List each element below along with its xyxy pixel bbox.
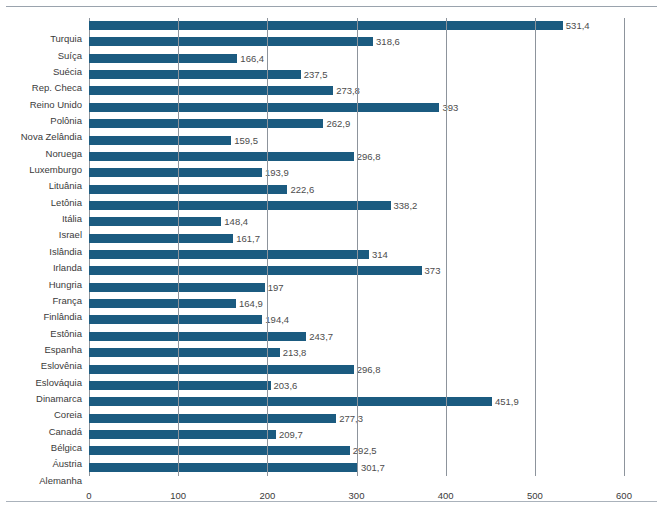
bar-value-label: 209,7	[279, 428, 303, 441]
bar[interactable]	[89, 463, 358, 472]
bar-value-label: 161,7	[236, 232, 260, 245]
plot-area: 531,4318,6166,4237,5273,8393262,9159,529…	[89, 18, 624, 476]
xtick-label-0: 0	[86, 490, 91, 501]
bar-value-label: 262,9	[326, 117, 350, 130]
bar[interactable]	[89, 86, 333, 95]
chart-page: TurquiaSuíçaSuéciaRep. ChecaReino UnidoP…	[0, 0, 663, 510]
bar-value-label: 243,7	[309, 330, 333, 343]
bar-value-label: 197	[268, 281, 284, 294]
xtick-label-200: 200	[259, 490, 275, 501]
bar[interactable]	[89, 348, 280, 357]
bar[interactable]	[89, 136, 231, 145]
bar-value-label: 222,6	[290, 183, 314, 196]
bar[interactable]	[89, 283, 265, 292]
bar[interactable]	[89, 332, 306, 341]
bar[interactable]	[89, 446, 350, 455]
category-label: Eslováquia	[36, 377, 82, 389]
bar-value-label: 237,5	[304, 68, 328, 81]
category-label: Eslovênia	[41, 360, 82, 372]
bar[interactable]	[89, 119, 323, 128]
gridline-600	[624, 18, 625, 476]
gridline-300	[357, 18, 358, 476]
xtick-label-500: 500	[527, 490, 543, 501]
bar[interactable]	[89, 217, 221, 226]
xtick-label-600: 600	[616, 490, 632, 501]
category-label: Bélgica	[51, 442, 82, 454]
bar[interactable]	[89, 299, 236, 308]
bar-value-label: 193,9	[265, 166, 289, 179]
category-label: Letônia	[51, 197, 82, 209]
category-label: Islândia	[49, 246, 82, 258]
category-label: Noruega	[46, 148, 82, 160]
bar-value-label: 296,8	[357, 150, 381, 163]
top-divider-rule	[6, 6, 657, 7]
gridline-400	[446, 18, 447, 476]
bar[interactable]	[89, 414, 336, 423]
category-label: Áustria	[52, 458, 82, 470]
bar[interactable]	[89, 152, 354, 161]
gridline-500	[535, 18, 536, 476]
bar[interactable]	[89, 168, 262, 177]
bar-value-label: 159,5	[234, 134, 258, 147]
category-label: Luxemburgo	[29, 164, 82, 176]
category-label: Coreia	[54, 409, 82, 421]
bar-value-label: 451,9	[495, 395, 519, 408]
category-label: Irlanda	[53, 262, 82, 274]
bar-value-label: 203,6	[274, 379, 298, 392]
category-label: Israel	[59, 229, 82, 241]
category-axis-labels: TurquiaSuíçaSuéciaRep. ChecaReino UnidoP…	[0, 32, 86, 490]
category-label: Suécia	[53, 66, 82, 78]
category-label: Suíça	[58, 50, 82, 62]
category-label: Dinamarca	[36, 393, 82, 405]
category-label: Finlândia	[43, 311, 82, 323]
horizontal-bar-chart: TurquiaSuíçaSuéciaRep. ChecaReino UnidoP…	[0, 14, 663, 492]
category-label: Rep. Checa	[32, 82, 82, 94]
category-label: Alemanha	[39, 475, 82, 487]
bar[interactable]	[89, 21, 563, 30]
bar[interactable]	[89, 37, 373, 46]
category-label: Reino Unido	[30, 99, 82, 111]
category-label: Polônia	[50, 115, 82, 127]
bar-value-label: 314	[372, 248, 388, 261]
bar-value-label: 277,3	[339, 412, 363, 425]
bar[interactable]	[89, 397, 492, 406]
bar-value-label: 373	[425, 264, 441, 277]
bar-value-label: 338,2	[394, 199, 418, 212]
category-label: França	[52, 295, 82, 307]
bar-value-label: 296,8	[357, 363, 381, 376]
bar[interactable]	[89, 185, 287, 194]
bar[interactable]	[89, 315, 262, 324]
bar-value-label: 213,8	[283, 346, 307, 359]
bar-value-label: 531,4	[566, 19, 590, 32]
bar[interactable]	[89, 70, 301, 79]
bar-value-label: 164,9	[239, 297, 263, 310]
bar[interactable]	[89, 250, 369, 259]
bar-value-label: 194,4	[265, 313, 289, 326]
bar-value-label: 166,4	[240, 52, 264, 65]
xtick-label-300: 300	[349, 490, 365, 501]
bar[interactable]	[89, 234, 233, 243]
category-label: Lituânia	[49, 180, 82, 192]
xtick-label-100: 100	[170, 490, 186, 501]
category-label: Turquia	[50, 33, 82, 45]
value-axis-tick-labels: 0100200300400500600	[89, 490, 629, 506]
bar-value-label: 301,7	[361, 461, 385, 474]
bar[interactable]	[89, 381, 271, 390]
gridline-200	[267, 18, 268, 476]
category-label: Hungria	[49, 279, 82, 291]
category-label: Itália	[62, 213, 82, 225]
category-label: Nova Zelândia	[21, 131, 82, 143]
category-label: Estônia	[50, 328, 82, 340]
bar[interactable]	[89, 103, 439, 112]
bar[interactable]	[89, 266, 422, 275]
bar[interactable]	[89, 201, 391, 210]
bar-value-label: 148,4	[224, 215, 248, 228]
xtick-label-400: 400	[438, 490, 454, 501]
category-label: Canadá	[49, 426, 82, 438]
bar-value-label: 318,6	[376, 35, 400, 48]
category-label: Espanha	[44, 344, 82, 356]
bar[interactable]	[89, 54, 237, 63]
bar[interactable]	[89, 365, 354, 374]
bar[interactable]	[89, 430, 276, 439]
gridline-100	[178, 18, 179, 476]
